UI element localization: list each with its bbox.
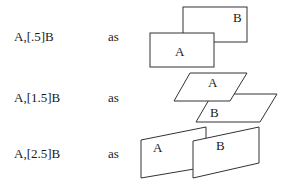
row-2-diagram: A B bbox=[174, 73, 277, 122]
shape-b-label: B bbox=[210, 105, 219, 120]
row-1-diagram: B A bbox=[150, 7, 247, 67]
shape-a-label: A bbox=[208, 75, 218, 90]
shape-a-label: A bbox=[175, 44, 185, 59]
shape-a-label: A bbox=[153, 140, 163, 155]
shape-b-label: B bbox=[216, 138, 225, 153]
row-3-diagram: A B bbox=[141, 127, 259, 178]
shape-b-label: B bbox=[233, 10, 242, 25]
diagram-canvas: B A A B A B bbox=[0, 0, 291, 188]
